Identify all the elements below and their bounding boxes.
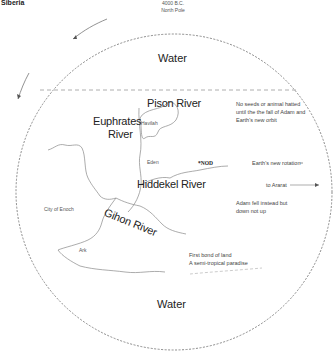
- note-no-seeds-line2: until the the fall of Adam and: [236, 109, 305, 115]
- land-outline-left: [48, 145, 116, 200]
- city-of-enoch-label: City of Enoch: [44, 207, 74, 213]
- havilah-label: Havilah: [141, 121, 158, 127]
- note-adam-line2: down not up: [236, 208, 266, 214]
- note-first-land-line1: First bond of land: [189, 252, 232, 258]
- to-ararat-label: to Ararat: [266, 182, 287, 188]
- ark-label: Ark: [79, 248, 87, 254]
- new-rotation-label: Earth's new rotation: [252, 160, 300, 166]
- note-first-land-line2: A semi-tropical paradise: [189, 260, 248, 266]
- rotation-arrow-left-icon: [18, 73, 29, 99]
- euphrates-river-label-line2: River: [108, 128, 133, 141]
- euphrates-river-label-line1: Euphrates: [93, 115, 141, 128]
- nod-label: *NOD: [198, 160, 213, 166]
- water-label-bottom: Water: [157, 298, 186, 311]
- date-label: 4000 B.C.: [153, 1, 193, 7]
- pison-river-label: Pison River: [147, 97, 201, 110]
- rotation-arrow-icon: [73, 19, 107, 39]
- note-no-seeds-line3: Earth's new orbit: [236, 117, 277, 123]
- note-adam-line1: Adam fell instead but: [236, 200, 287, 206]
- water-label-top: Water: [158, 52, 187, 65]
- eden-label: Eden: [147, 160, 159, 166]
- note-no-seeds-line1: No seeds or animal hatted: [236, 101, 300, 107]
- north-pole-label: North Pole: [150, 8, 196, 14]
- siberia-label: Siberia: [1, 0, 24, 7]
- hiddekel-river-label: Hiddekel River: [137, 178, 206, 191]
